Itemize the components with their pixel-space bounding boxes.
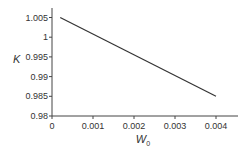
x-tick-label: 0.003 xyxy=(164,121,187,131)
y-tick-label: 1.005 xyxy=(25,13,48,23)
x-tick-label: 0.002 xyxy=(123,121,146,131)
y-tick-label: 1 xyxy=(43,32,48,42)
y-tick-label: 0.995 xyxy=(25,52,48,62)
y-tick-label: 0.98 xyxy=(30,111,48,121)
x-tick-label: 0.004 xyxy=(205,121,228,131)
x-tick-label: 0.001 xyxy=(82,121,105,131)
y-axis-label: K xyxy=(13,53,21,65)
data-line xyxy=(60,18,216,97)
x-axis-label: W0 xyxy=(136,133,150,147)
chart: 0.980.9850.990.99511.00500.0010.0020.003… xyxy=(0,0,248,153)
y-tick-label: 0.99 xyxy=(30,72,48,82)
y-tick-label: 0.985 xyxy=(25,91,48,101)
x-tick-label: 0 xyxy=(49,121,54,131)
